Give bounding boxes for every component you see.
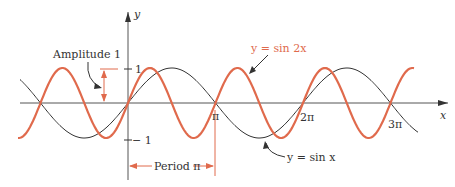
x-tick-2pi: 2π: [300, 111, 314, 124]
x-axis-label: x: [440, 109, 447, 122]
sinx-pointer-arrow-icon: [263, 141, 269, 149]
arrow-up-icon: [101, 70, 107, 78]
pointer-arrow-icon: [94, 83, 102, 89]
sin2x-label: y = sin 2x: [250, 42, 307, 55]
arrow-down-icon: [101, 94, 107, 102]
y-axis-label: y: [133, 8, 141, 21]
sine-graph: y x 1 − 1 π 2π 3π Amplitude 1 Period π y…: [0, 0, 455, 187]
sinx-label: y = sin x: [286, 151, 336, 164]
arrow-left-icon: [129, 163, 137, 169]
y-tick-1: 1: [135, 63, 142, 76]
arrow-right-icon: [206, 163, 214, 169]
period-label: Period π: [154, 160, 201, 173]
y-axis-arrow-icon: [125, 12, 131, 22]
x-tick-pi: π: [212, 110, 219, 123]
amplitude-pointer: [88, 62, 100, 87]
amplitude-label: Amplitude 1: [52, 48, 121, 61]
x-axis-arrow-icon: [438, 100, 448, 106]
sin2x-pointer-arrow-icon: [249, 66, 256, 74]
sinx-pointer: [266, 143, 285, 157]
y-tick-neg1: − 1: [132, 134, 152, 147]
x-tick-3pi: 3π: [388, 118, 402, 131]
